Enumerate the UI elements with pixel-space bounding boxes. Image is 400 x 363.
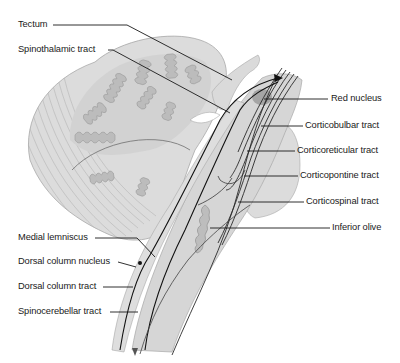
label-medial-lemniscus: Medial lemniscus <box>18 232 88 243</box>
label-dorsal-column-nucleus: Dorsal column nucleus <box>18 256 110 267</box>
label-corticospinal-tract: Corticospinal tract <box>306 196 379 207</box>
label-spinocerebellar-tract: Spinocerebellar tract <box>18 306 101 317</box>
dorsal-column-nucleus-dot <box>138 261 142 265</box>
label-corticopontine-tract: Corticopontine tract <box>300 170 379 181</box>
label-red-nucleus: Red nucleus <box>331 93 382 104</box>
label-corticobulbar-tract: Corticobulbar tract <box>305 120 379 131</box>
label-dorsal-column-tract: Dorsal column tract <box>18 281 96 292</box>
label-inferior-olive: Inferior olive <box>332 222 381 233</box>
brainstem-diagram: Tectum Spinothalamic tract Medial lemnis… <box>0 0 400 363</box>
label-spinothalamic-tract: Spinothalamic tract <box>18 44 95 55</box>
label-corticoreticular-tract: Corticoreticular tract <box>297 145 378 156</box>
label-tectum: Tectum <box>18 19 47 30</box>
arrow-head-down <box>132 348 138 356</box>
